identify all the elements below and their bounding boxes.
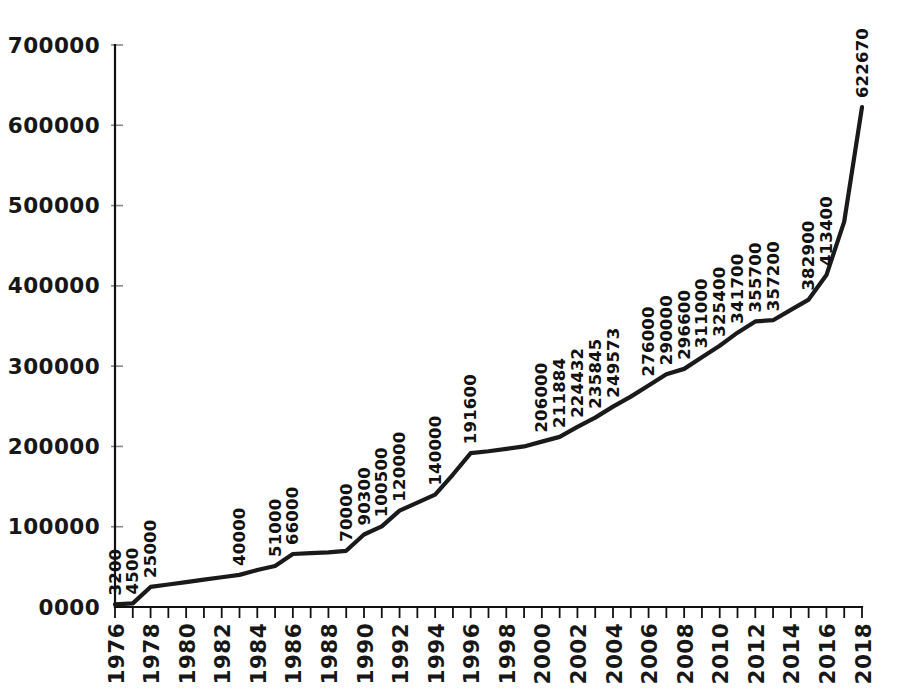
- x-axis-tick-label: 1998: [495, 623, 520, 684]
- data-point-label: 25000: [141, 520, 160, 578]
- x-axis-tick-label: 2006: [637, 623, 662, 684]
- x-axis-tick-label: 2018: [851, 623, 876, 684]
- x-axis-tick-label: 2012: [744, 623, 769, 684]
- data-point-label: 290000: [657, 295, 676, 365]
- y-axis-tick-label: 600000: [8, 113, 100, 138]
- data-point-label: 276000: [639, 306, 658, 376]
- data-point-label: 211884: [550, 358, 569, 428]
- data-point-label: 224432: [568, 348, 587, 418]
- data-point-label: 341700: [728, 254, 747, 324]
- y-axis-tick-label: 300000: [8, 354, 100, 379]
- y-axis-tick-label: 500000: [8, 193, 100, 218]
- x-axis-tick-label: 1976: [104, 623, 129, 684]
- x-axis-tick-label: 2002: [566, 623, 591, 684]
- data-point-label: 90300: [355, 467, 374, 525]
- x-axis-tick-label: 1990: [353, 623, 378, 684]
- x-axis-tick-label: 1978: [139, 623, 164, 684]
- x-axis-tick-labels: 1976197819801982198419861988199019921994…: [104, 623, 876, 684]
- data-point-label: 357200: [764, 241, 783, 311]
- x-axis-tick-label: 1994: [424, 623, 449, 684]
- data-series-line: [115, 107, 862, 604]
- x-axis-tick-label: 2004: [602, 623, 627, 684]
- data-point-label: 325400: [710, 267, 729, 337]
- y-axis-tick-label: 100000: [8, 514, 100, 539]
- data-point-label: 413400: [817, 196, 836, 266]
- data-point-label: 622670: [853, 28, 872, 98]
- chart-page: 0000100000200000300000400000500000600000…: [0, 0, 899, 692]
- y-axis-tick-labels: 0000100000200000300000400000500000600000…: [8, 33, 100, 620]
- data-point-label: 140000: [426, 416, 445, 486]
- data-point-label: 235845: [586, 339, 605, 409]
- y-axis-tick-label: 700000: [8, 33, 100, 58]
- data-point-label: 70000: [337, 483, 356, 541]
- x-axis-tick-label: 1984: [246, 623, 271, 684]
- data-point-label: 51000: [266, 499, 285, 557]
- y-axis-tick-label: 200000: [8, 434, 100, 459]
- x-axis-tick-marks: [115, 607, 862, 618]
- data-point-label: 4500: [123, 548, 142, 595]
- y-axis-tick-marks: [111, 45, 123, 527]
- x-axis-tick-label: 1982: [210, 623, 235, 684]
- data-point-label: 249573: [604, 328, 623, 398]
- data-point-label: 206000: [532, 363, 551, 433]
- data-point-label: 355700: [746, 242, 765, 312]
- data-point-label: 311000: [692, 278, 711, 348]
- line-chart: 0000100000200000300000400000500000600000…: [0, 0, 899, 692]
- data-point-label: 66000: [283, 487, 302, 545]
- x-axis-tick-label: 1988: [317, 623, 342, 684]
- data-point-label: 3200: [106, 549, 125, 596]
- x-axis-tick-label: 2016: [815, 623, 840, 684]
- x-axis-tick-label: 2010: [708, 623, 733, 684]
- data-point-label: 40000: [230, 507, 249, 565]
- x-axis-tick-label: 1996: [459, 623, 484, 684]
- y-axis-tick-label: 400000: [8, 273, 100, 298]
- data-point-label: 120000: [390, 432, 409, 502]
- x-axis-tick-label: 2014: [779, 623, 804, 684]
- data-point-label: 100500: [372, 447, 391, 517]
- data-point-label: 382900: [799, 220, 818, 290]
- x-axis-tick-label: 1992: [388, 623, 413, 684]
- x-axis-tick-label: 1986: [281, 623, 306, 684]
- x-axis-tick-label: 2000: [530, 623, 555, 684]
- x-axis-tick-label: 2008: [673, 623, 698, 684]
- y-axis-tick-label: 0000: [39, 595, 100, 620]
- data-point-labels: 3200450025000400005100066000700009030010…: [106, 28, 872, 595]
- data-point-label: 296600: [675, 290, 694, 360]
- x-axis-tick-label: 1980: [175, 623, 200, 684]
- data-point-label: 191600: [461, 374, 480, 444]
